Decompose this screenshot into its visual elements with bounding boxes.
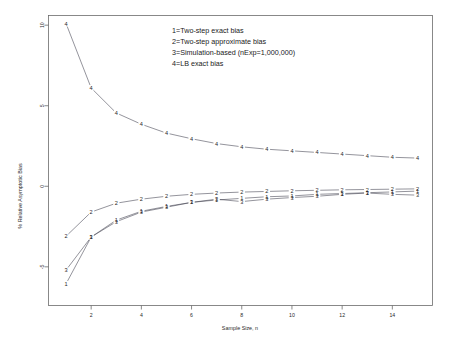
- data-point-1: 1: [65, 281, 68, 287]
- y-tick-label: -5: [40, 264, 46, 269]
- data-point-2: 2: [190, 191, 193, 197]
- data-point-4: 4: [315, 149, 318, 155]
- data-point-3: 3: [90, 234, 93, 240]
- legend-entry: 2=Two-step approximate bias: [172, 37, 266, 46]
- data-point-3: 3: [341, 191, 344, 197]
- legend-entry: 4=LB exact bias: [172, 59, 224, 68]
- data-point-2: 2: [90, 209, 93, 215]
- data-point-2: 2: [290, 188, 293, 194]
- data-point-4: 4: [391, 154, 394, 160]
- data-point-3: 3: [265, 196, 268, 202]
- data-point-3: 3: [416, 192, 419, 198]
- x-axis-title: Sample Size, n: [222, 325, 258, 331]
- data-point-3: 3: [391, 191, 394, 197]
- data-point-4: 4: [416, 155, 419, 161]
- x-tick-label: 14: [389, 312, 395, 318]
- data-point-3: 3: [190, 199, 193, 205]
- data-point-4: 4: [140, 121, 143, 127]
- data-point-2: 2: [115, 200, 118, 206]
- data-point-4: 4: [341, 151, 344, 157]
- chart-figure: 1050-5 2468101214 % Relative Asymptotic …: [0, 0, 456, 342]
- data-point-3: 3: [366, 190, 369, 196]
- data-point-4: 4: [240, 144, 243, 150]
- y-tick-label: 10: [40, 22, 46, 28]
- chart-canvas: 1050-5 2468101214 % Relative Asymptotic …: [0, 0, 456, 342]
- data-point-4: 4: [190, 136, 193, 142]
- x-tick-label: 2: [90, 312, 93, 318]
- data-point-4: 4: [265, 146, 268, 152]
- data-point-3: 3: [215, 196, 218, 202]
- x-tick-label: 6: [190, 312, 193, 318]
- x-tick-label: 8: [240, 312, 243, 318]
- data-point-4: 4: [115, 110, 118, 116]
- data-point-3: 3: [165, 204, 168, 210]
- data-point-4: 4: [165, 130, 168, 136]
- data-point-2: 2: [416, 186, 419, 192]
- data-point-4: 4: [90, 85, 93, 91]
- data-point-2: 2: [165, 193, 168, 199]
- y-axis-title: % Relative Asymptotic Bias: [17, 163, 23, 229]
- data-point-3: 3: [140, 209, 143, 215]
- data-point-4: 4: [65, 21, 68, 27]
- data-point-2: 2: [215, 190, 218, 196]
- data-point-3: 3: [115, 219, 118, 225]
- legend-entry: 1=Two-step exact bias: [172, 26, 244, 35]
- data-point-2: 2: [265, 188, 268, 194]
- x-tick-label: 10: [289, 312, 295, 318]
- x-tick-label: 12: [339, 312, 345, 318]
- data-point-4: 4: [215, 141, 218, 147]
- data-point-2: 2: [240, 189, 243, 195]
- data-point-4: 4: [290, 148, 293, 154]
- y-tick-label: 0: [40, 185, 46, 188]
- y-tick-label: 5: [40, 104, 46, 107]
- data-point-2: 2: [65, 233, 68, 239]
- data-point-4: 4: [366, 153, 369, 159]
- data-point-3: 3: [315, 193, 318, 199]
- legend-entry: 3=Simulation-based (nExp=1,000,000): [172, 48, 295, 57]
- data-point-2: 2: [140, 196, 143, 202]
- data-point-3: 3: [290, 195, 293, 201]
- x-tick-label: 4: [140, 312, 143, 318]
- data-point-3: 3: [240, 199, 243, 205]
- data-point-3: 3: [65, 267, 68, 273]
